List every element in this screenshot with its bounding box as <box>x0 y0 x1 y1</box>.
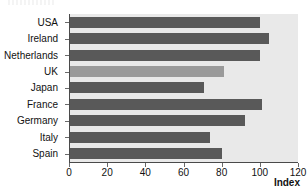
x-axis-tick-label: 60 <box>178 167 189 178</box>
y-axis-label-uk: UK <box>0 66 62 77</box>
bar-japan <box>69 82 204 93</box>
bar-germany <box>69 115 245 126</box>
y-tick-mark <box>65 39 69 40</box>
bar-usa <box>69 17 260 28</box>
y-tick-slot <box>64 99 69 110</box>
y-axis-label-netherlands: Netherlands <box>0 50 62 61</box>
y-tick-mark <box>65 55 69 56</box>
y-tick-mark <box>65 137 69 138</box>
y-tick-mark <box>65 104 69 105</box>
x-axis-tick-label: 100 <box>251 167 268 178</box>
bar-row <box>69 82 298 93</box>
x-axis-tick-label: 80 <box>216 167 227 178</box>
y-axis-labels: USAIrelandNetherlandsUKJapanFranceGerman… <box>0 14 62 162</box>
bar-row <box>69 99 298 110</box>
bar-row <box>69 132 298 143</box>
y-tick-mark <box>65 121 69 122</box>
y-tick-slot <box>64 17 69 28</box>
x-axis-title: Index <box>274 177 300 188</box>
bar-spain <box>69 148 222 159</box>
y-tick-mark <box>65 88 69 89</box>
y-tick-mark <box>65 22 69 23</box>
y-tick-slot <box>64 82 69 93</box>
bar-row <box>69 148 298 159</box>
y-axis-label-spain: Spain <box>0 148 62 159</box>
bar-ireland <box>69 33 269 44</box>
bar-chart-figure: USAIrelandNetherlandsUKJapanFranceGerman… <box>0 0 308 190</box>
bar-row <box>69 50 298 61</box>
y-axis-label-italy: Italy <box>0 132 62 143</box>
y-tick-slot <box>64 66 69 77</box>
y-axis-label-usa: USA <box>0 17 62 28</box>
bar-row <box>69 66 298 77</box>
y-tick-mark <box>65 154 69 155</box>
bar-netherlands <box>69 50 260 61</box>
bar-row <box>69 115 298 126</box>
y-axis-line <box>69 14 70 162</box>
bar-uk <box>69 66 224 77</box>
x-axis-labels: 020406080100120 <box>69 167 298 179</box>
x-axis-tick-label: 0 <box>66 167 72 178</box>
x-axis-tick-label: 40 <box>140 167 151 178</box>
y-tick-mark <box>65 72 69 73</box>
bar-france <box>69 99 262 110</box>
y-axis-label-japan: Japan <box>0 82 62 93</box>
y-tick-slot <box>64 33 69 44</box>
bar-row <box>69 17 298 28</box>
bar-row <box>69 33 298 44</box>
bars-layer <box>69 14 298 162</box>
plot-area <box>69 14 298 162</box>
x-axis-tick-label: 20 <box>102 167 113 178</box>
y-tick-slot <box>64 50 69 61</box>
y-axis-label-ireland: Ireland <box>0 33 62 44</box>
y-tick-slot <box>64 115 69 126</box>
y-axis-ticks <box>64 14 69 162</box>
y-axis-label-germany: Germany <box>0 115 62 126</box>
y-tick-slot <box>64 132 69 143</box>
y-axis-label-france: France <box>0 99 62 110</box>
y-tick-slot <box>64 148 69 159</box>
bar-italy <box>69 132 210 143</box>
clipped-text-sliver <box>8 0 54 5</box>
